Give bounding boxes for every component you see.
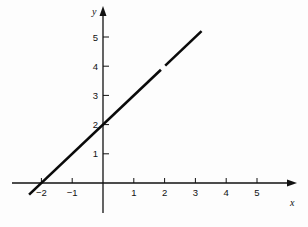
- y-tick-label: 3: [93, 90, 98, 101]
- plot-area: −2−11234512345 x y: [0, 0, 308, 227]
- data-series: [29, 31, 201, 195]
- x-tick-label: −1: [67, 187, 78, 198]
- y-tick-label: 5: [93, 32, 98, 43]
- y-axis-label: y: [91, 6, 97, 17]
- data-line-segment: [165, 31, 201, 65]
- y-tick-label: 4: [93, 61, 98, 72]
- y-tick-label: 1: [93, 148, 98, 159]
- x-axis-arrow-icon: [287, 180, 297, 187]
- x-tick-label: 1: [131, 187, 136, 198]
- x-tick-label: 5: [254, 187, 259, 198]
- x-tick-label: 3: [193, 187, 198, 198]
- ticks: −2−11234512345: [36, 32, 260, 199]
- x-tick-label: −2: [36, 187, 47, 198]
- chart: −2−11234512345 x y: [0, 0, 308, 227]
- x-tick-label: 2: [162, 187, 167, 198]
- data-line-segment: [29, 70, 161, 195]
- x-tick-label: 4: [224, 187, 229, 198]
- x-axis-label: x: [289, 197, 295, 208]
- y-axis-arrow-icon: [100, 6, 107, 16]
- axes: [12, 6, 297, 213]
